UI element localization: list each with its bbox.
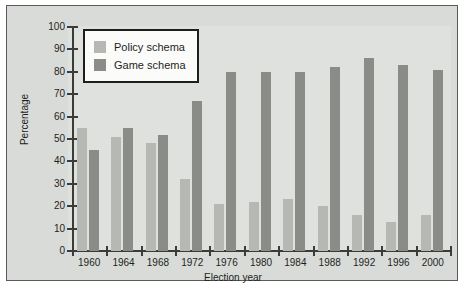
- legend-swatch-policy-schema: [94, 41, 106, 53]
- y-tick-label-40: 40: [39, 156, 65, 166]
- y-tick-label-30: 30: [39, 179, 65, 189]
- bar-policy-schema-1992: [352, 215, 362, 251]
- bar-policy-schema-1964: [111, 137, 121, 251]
- y-tick-label-wrap-90: 90: [35, 44, 65, 54]
- y-tick-label-wrap-80: 80: [35, 67, 65, 77]
- x-tick-label-1960: 1960: [72, 257, 106, 268]
- legend-item-policy-schema: Policy schema: [94, 38, 186, 56]
- legend-label-policy-schema: Policy schema: [114, 41, 185, 53]
- bar-policy-schema-1984: [283, 199, 293, 251]
- y-tick-label-90: 90: [39, 44, 65, 54]
- y-tick-label-wrap-100: 100: [35, 22, 65, 32]
- bar-policy-schema-1960: [77, 128, 87, 251]
- y-tick-label-wrap-70: 70: [35, 89, 65, 99]
- y-tick-label-100: 100: [39, 22, 65, 32]
- bar-game-schema-1980: [261, 72, 271, 251]
- bar-game-schema-1968: [158, 135, 168, 251]
- x-tick-label-1984: 1984: [278, 257, 312, 268]
- x-tick-label-1976: 1976: [210, 257, 244, 268]
- bar-game-schema-1964: [123, 128, 133, 251]
- x-tick-label-1996: 1996: [381, 257, 415, 268]
- y-tick-label-wrap-20: 20: [35, 201, 65, 211]
- bar-game-schema-1988: [330, 67, 340, 251]
- legend-swatch-game-schema: [94, 59, 106, 71]
- x-tick-label-1968: 1968: [141, 257, 175, 268]
- y-tick-label-50: 50: [39, 134, 65, 144]
- bar-policy-schema-1996: [386, 222, 396, 251]
- x-tick-label-2000: 2000: [416, 257, 450, 268]
- bar-game-schema-1972: [192, 101, 202, 251]
- bar-policy-schema-1968: [146, 143, 156, 251]
- bar-policy-schema-1988: [318, 206, 328, 251]
- y-tick-label-wrap-0: 0: [35, 246, 65, 256]
- legend-item-game-schema: Game schema: [94, 56, 186, 74]
- bar-game-schema-2000: [433, 70, 443, 251]
- x-tick-label-1988: 1988: [313, 257, 347, 268]
- bar-policy-schema-1972: [180, 179, 190, 251]
- x-tick-label-1992: 1992: [347, 257, 381, 268]
- y-tick-label-70: 70: [39, 89, 65, 99]
- bar-policy-schema-2000: [421, 215, 431, 251]
- bar-policy-schema-1980: [249, 202, 259, 251]
- x-tick-label-1972: 1972: [175, 257, 209, 268]
- chart-figure: 0102030405060708090100 19601964196819721…: [0, 0, 465, 287]
- y-tick-label-60: 60: [39, 112, 65, 122]
- bar-policy-schema-1976: [214, 204, 224, 251]
- chart-legend: Policy schema Game schema: [83, 29, 199, 83]
- y-axis-title: Percentage: [19, 70, 30, 170]
- bar-game-schema-1960: [89, 150, 99, 251]
- bar-game-schema-1992: [364, 58, 374, 251]
- y-tick-label-80: 80: [39, 67, 65, 77]
- x-tick-label-1980: 1980: [244, 257, 278, 268]
- bar-game-schema-1996: [398, 65, 408, 251]
- y-tick-label-wrap-50: 50: [35, 134, 65, 144]
- x-tick-label-1964: 1964: [107, 257, 141, 268]
- bar-game-schema-1984: [295, 72, 305, 251]
- chart-panel: 0102030405060708090100 19601964196819721…: [6, 5, 458, 281]
- y-tick-label-wrap-60: 60: [35, 112, 65, 122]
- y-tick-label-10: 10: [39, 224, 65, 234]
- y-tick-label-0: 0: [39, 246, 65, 256]
- y-tick-label-wrap-10: 10: [35, 224, 65, 234]
- x-axis-title: Election year: [7, 272, 459, 283]
- legend-label-game-schema: Game schema: [114, 59, 186, 71]
- y-tick-label-20: 20: [39, 201, 65, 211]
- bar-game-schema-1976: [226, 72, 236, 251]
- y-tick-label-wrap-30: 30: [35, 179, 65, 189]
- y-tick-label-wrap-40: 40: [35, 156, 65, 166]
